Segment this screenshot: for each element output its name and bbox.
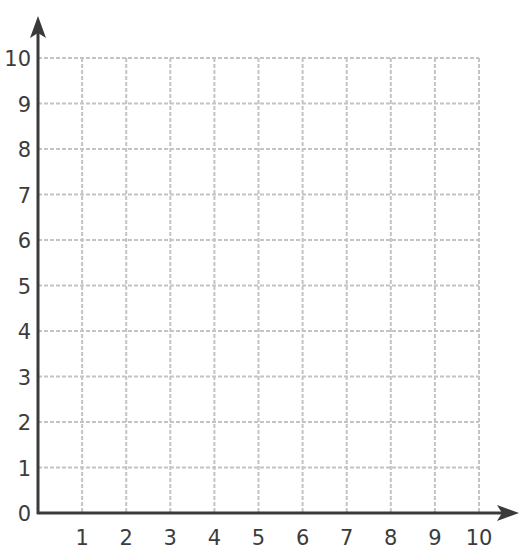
x-tick-label: 8 — [384, 526, 397, 550]
x-tick-label: 4 — [208, 526, 221, 550]
x-tick-label: 2 — [120, 526, 133, 550]
y-tick-label: 3 — [18, 366, 31, 390]
coordinate-grid: 12345678910 012345678910 — [0, 0, 522, 554]
y-tick-label: 1 — [18, 457, 31, 481]
y-tick-label: 10 — [4, 47, 31, 71]
x-tick-label: 6 — [296, 526, 309, 550]
x-tick-label: 5 — [252, 526, 265, 550]
x-axis-tick-labels: 12345678910 — [75, 526, 492, 550]
x-tick-label: 1 — [75, 526, 88, 550]
y-tick-label: 9 — [18, 93, 31, 117]
x-tick-label: 9 — [428, 526, 441, 550]
x-tick-label: 3 — [164, 526, 177, 550]
y-tick-label: 5 — [18, 275, 31, 299]
grid-lines — [38, 58, 479, 513]
y-tick-label: 0 — [18, 502, 31, 526]
y-tick-label: 2 — [18, 411, 31, 435]
y-tick-label: 6 — [18, 229, 31, 253]
x-tick-label: 7 — [340, 526, 353, 550]
y-tick-label: 7 — [18, 184, 31, 208]
axes — [30, 16, 519, 521]
y-tick-label: 4 — [18, 320, 31, 344]
y-tick-label: 8 — [18, 138, 31, 162]
x-tick-label: 10 — [466, 526, 493, 550]
y-axis-tick-labels: 012345678910 — [4, 47, 31, 526]
